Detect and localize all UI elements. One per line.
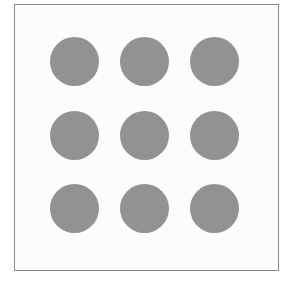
grid-dot: [190, 37, 239, 86]
grid-dot: [120, 184, 169, 233]
grid-dot: [50, 37, 99, 86]
dot-grid-figure: [0, 0, 292, 281]
grid-dot: [120, 37, 169, 86]
grid-dot: [190, 111, 239, 160]
grid-dot: [50, 111, 99, 160]
grid-dot: [120, 111, 169, 160]
grid-dot: [190, 184, 239, 233]
grid-dot: [50, 184, 99, 233]
